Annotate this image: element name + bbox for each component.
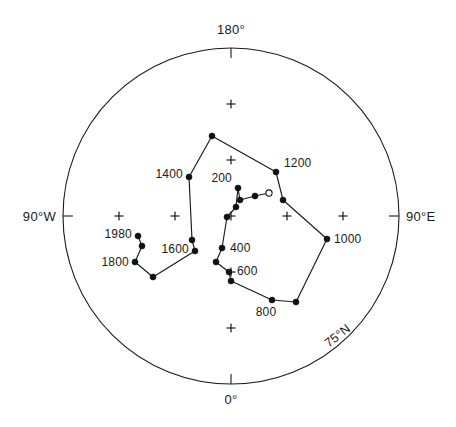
axis-label-bottom: 0°	[224, 392, 237, 407]
label-1600: 1600	[162, 242, 190, 256]
label-1000: 1000	[334, 232, 362, 246]
data-point-marker	[192, 248, 198, 254]
cross-top-icon	[227, 100, 236, 109]
polar-wander-chart: 180°0°90°W90°E 2004006008001000120014001…	[0, 0, 456, 427]
label-1200: 1200	[284, 156, 312, 170]
data-point-marker	[324, 236, 330, 242]
axis-label-left: 90°W	[23, 209, 57, 224]
data-point-marker	[213, 259, 219, 265]
data-point-marker	[237, 197, 243, 203]
grid-cross-group	[115, 100, 348, 333]
data-point-marker	[224, 214, 230, 220]
cross-right-inner-icon	[283, 212, 292, 221]
cross-upper-mid-icon	[227, 156, 236, 165]
data-point-marker	[293, 299, 299, 305]
data-point-marker	[186, 174, 192, 180]
data-point-marker	[280, 197, 286, 203]
data-point-marker	[150, 274, 156, 280]
data-point-marker	[226, 269, 232, 275]
data-point-marker	[219, 245, 225, 251]
label-800: 800	[256, 305, 277, 319]
data-point-marker	[228, 278, 234, 284]
label-1980: 1980	[105, 227, 133, 241]
data-point-marker	[139, 243, 145, 249]
label-200: 200	[211, 171, 232, 185]
data-point-marker	[132, 259, 138, 265]
label-600: 600	[237, 264, 258, 278]
cross-left-inner-icon	[171, 212, 180, 221]
data-point-marker	[189, 237, 195, 243]
axis-label-right: 90°E	[406, 209, 436, 224]
data-point-marker	[273, 169, 279, 175]
data-point-marker	[233, 204, 239, 210]
label-1800: 1800	[102, 255, 130, 269]
label-400: 400	[230, 241, 251, 255]
data-point-marker	[135, 233, 141, 239]
data-point-marker	[269, 297, 275, 303]
axis-label-top: 180°	[217, 22, 245, 37]
cross-left-outer-icon	[115, 212, 124, 221]
data-point-open-marker	[266, 190, 272, 196]
data-point-marker	[235, 185, 241, 191]
polar-plot-svg: 180°0°90°W90°E 2004006008001000120014001…	[0, 0, 456, 427]
cross-bottom-icon	[227, 324, 236, 333]
data-point-marker	[252, 193, 258, 199]
cross-right-outer-icon	[339, 212, 348, 221]
label-1400: 1400	[156, 167, 184, 181]
data-point-marker	[209, 133, 215, 139]
